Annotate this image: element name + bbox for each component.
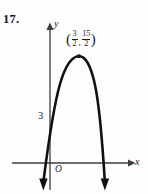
y-axis-label: y [54,19,58,29]
vertex-y-numerator: 15 [82,30,90,39]
vertex-x-numerator: 3 [73,30,77,39]
vertex-x-fraction: 3 2 [71,30,78,48]
y-intercept-label: 3 [38,111,43,122]
parabola-curve [44,56,105,181]
left-branch-arrowhead [39,179,47,191]
origin-label: O [55,165,62,175]
y-axis-arrowhead [46,23,53,31]
vertex-close-paren: ) [91,33,96,45]
vertex-comma: , [78,38,82,47]
vertex-x-denominator: 2 [73,40,77,49]
vertex-coordinate-label: ( 3 2 , 15 2 ) [66,30,96,48]
vertex-open-paren: ( [66,33,71,45]
right-branch-arrowhead [101,179,109,191]
vertex-y-denominator: 2 [84,40,88,49]
x-axis-label: x [135,157,139,167]
vertex-y-fraction: 15 2 [82,30,91,48]
parabola-figure: 17. y x O 3 ( 3 2 , 15 2 [0,0,148,194]
vertex-point [77,54,81,58]
